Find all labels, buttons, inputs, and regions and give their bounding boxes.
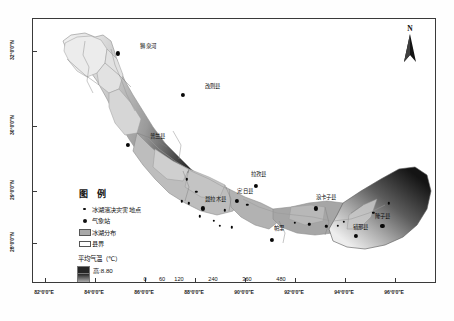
place-label: 帕里 [274,224,284,232]
legend-title: 图 例 [79,187,165,200]
legend-item-glacial-lake: 冰湖分布 [77,227,165,238]
scale-bar-ticks: 060120240360480 [145,276,281,283]
scale-bar-tick-label: 60 [159,276,165,282]
legend-item-label: 气象站 [92,216,110,225]
place-label: 拉孜县 [251,170,266,178]
lon-tick [395,278,396,283]
longitude-tick-label: 86°0'0"E [134,289,154,295]
place-label: 狮泉河 [140,42,155,50]
north-arrow-glyph [402,33,418,63]
temperature-ramp-icon [77,273,90,283]
scale-bar: 060120240360480 km [145,276,281,283]
legend-item-label: 冰湖分布 [92,228,116,237]
scale-bar-tick-label: 480 [276,276,285,282]
lon-tick [295,278,296,283]
scale-bar-tick-label: 120 [174,276,183,282]
latitude-tick-label: 29°0'0"N [9,180,15,200]
lat-tick [32,243,37,244]
longitude-tick-label: 82°0'0"E [34,289,54,295]
legend-item-label: 县界 [92,239,104,248]
longitude-tick-label: 84°0'0"E [84,289,104,295]
disaster-point-icon [77,208,92,210]
place-label: 聂拉木县 [205,195,225,203]
temperature-high-label: 高:8.80 [93,266,113,275]
longitude-tick-label: 92°0'0"E [284,289,304,295]
longitude-tick-label: 88°0'0"E [184,289,204,295]
map-figure: 狮泉河改则县普兰县聂拉木县定日县拉孜县帕里浪卡子县错那县隆子县 N 图 例 冰湖… [0,0,454,321]
legend-item-disaster-point: 冰湖溃决灾害地点 [77,204,165,215]
place-label: 隆子县 [375,212,390,220]
legend-item-weather-station: 气象站 [77,216,165,227]
glacial-lake-swatch-icon [77,229,92,236]
place-label: 定日县 [237,187,252,195]
map-canvas[interactable]: 狮泉河改则县普兰县聂拉木县定日县拉孜县帕里浪卡子县错那县隆子县 N 图 例 冰湖… [32,18,436,283]
place-label: 浪卡子县 [316,193,336,201]
legend-item-county-boundary: 县界 [77,239,165,250]
longitude-tick-label: 94°0'0"E [334,289,354,295]
weather-station-icon [77,219,92,223]
lat-tick [32,126,37,127]
legend: 图 例 冰湖溃决灾害地点 气象站 冰湖分布 [77,187,165,283]
longitude-tick-label: 96°0'0"E [384,289,404,295]
temperature-legend-title: 平均气温（℃） [78,254,165,263]
lat-tick [32,51,37,52]
place-label: 错那县 [353,223,368,231]
lat-tick [32,191,37,192]
north-arrow-letter: N [407,25,412,33]
scale-bar-tick-label: 240 [208,276,217,282]
latitude-tick-label: 28°0'0"N [9,232,15,252]
temperature-high-row: 高:8.80 [77,265,165,275]
scale-bar-tick-label: 0 [143,276,146,282]
longitude-tick-label: 90°0'0"E [234,289,254,295]
scale-bar-tick-label: 360 [242,276,251,282]
latitude-tick-label: 32°0'0"N [9,40,15,60]
place-label: 普兰县 [150,132,165,140]
lon-tick [45,278,46,283]
county-boundary-swatch-icon [77,241,92,248]
place-label: 改则县 [205,82,220,90]
north-arrow: N [399,25,421,69]
latitude-tick-label: 30°0'0"N [9,115,15,135]
legend-item-label: 冰湖溃决灾害地点 [92,205,141,214]
lon-tick [345,278,346,283]
